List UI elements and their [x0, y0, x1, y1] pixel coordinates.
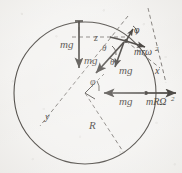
label-mromega-squared-group: mrω 2: [134, 45, 159, 57]
z-to-particle-connector: [110, 37, 126, 41]
particle-dot: [124, 39, 128, 43]
label-mRomega-squared-group: mRΩ 2: [146, 95, 175, 107]
label-axis-z: z: [93, 32, 98, 43]
diagram-canvas: mg mg mg mrω 2 mg mRΩ 2 z x y φ θ θ φ R: [0, 0, 182, 173]
label-angle-theta-upper: θ: [102, 43, 107, 53]
label-axis-x: x: [154, 65, 160, 76]
label-mromega-squared-exponent: 2: [155, 45, 159, 53]
y-axis-line: [40, 16, 128, 126]
label-mRomega-squared: mRΩ: [146, 96, 167, 107]
circle-edge-point: [144, 91, 148, 95]
label-angle-phi-center: φ: [90, 76, 96, 87]
label-radius-R: R: [88, 119, 96, 131]
label-axis-y: y: [44, 111, 50, 122]
label-mg-slanted-left: mg: [84, 54, 98, 66]
label-mg-horizontal-center: mg: [119, 95, 133, 107]
physics-force-diagram: mg mg mg mrω 2 mg mRΩ 2 z x y φ θ θ φ R: [0, 0, 182, 173]
label-mromega-squared: mrω: [134, 46, 152, 57]
label-angle-phi-top: φ: [134, 24, 140, 35]
label-mg-component-vertical: mg: [119, 64, 133, 76]
phi-center-arc: [97, 81, 99, 91]
label-mRomega-squared-exponent: 2: [171, 95, 175, 103]
label-angle-theta-lower: θ: [110, 57, 115, 67]
label-mg-vertical-top: mg: [60, 38, 74, 50]
